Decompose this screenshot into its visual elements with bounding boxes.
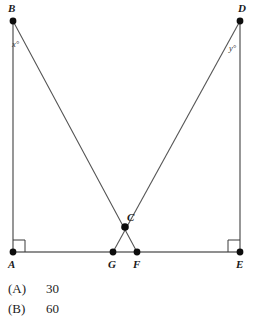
answer-key-a: (A): [8, 281, 38, 297]
point-label-d: D: [237, 2, 246, 14]
answer-options-list: (A) 30 (B) 60: [0, 281, 258, 321]
vertex-dot-e: [237, 249, 244, 256]
point-label-f: F: [132, 258, 141, 270]
segment-bf: [13, 21, 137, 252]
answer-option-a[interactable]: (A) 30: [8, 281, 258, 301]
angle-label-x: x°: [11, 39, 20, 49]
point-label-b: B: [7, 2, 15, 14]
answer-value-b: 60: [46, 301, 59, 317]
answer-key-b: (B): [8, 301, 38, 317]
vertex-dot-b: [10, 18, 17, 25]
geometry-diagram: B D A G F E C x° y°: [0, 0, 258, 280]
geometry-figure-container: B D A G F E C x° y°: [0, 0, 258, 280]
vertex-dot-a: [10, 249, 17, 256]
vertex-dot-g: [110, 249, 117, 256]
point-label-a: A: [7, 258, 15, 270]
answer-value-a: 30: [46, 281, 59, 297]
vertex-dot-c: [121, 223, 129, 231]
answer-option-b[interactable]: (B) 60: [8, 301, 258, 321]
vertex-dot-f: [134, 249, 141, 256]
point-label-g: G: [108, 258, 116, 270]
point-label-c: C: [127, 211, 135, 223]
vertex-dot-d: [237, 18, 244, 25]
angle-label-y: y°: [228, 43, 237, 53]
point-label-e: E: [235, 258, 243, 270]
